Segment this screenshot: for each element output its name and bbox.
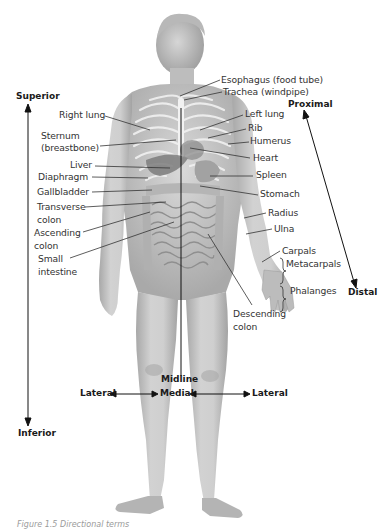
label-radius: Radius bbox=[268, 207, 298, 218]
label-left-lung: Left lung bbox=[245, 108, 284, 119]
label-descending-colon: Descending bbox=[233, 308, 286, 319]
lateral-left-label: Lateral bbox=[80, 388, 116, 398]
label-diaphragm: Diaphragm bbox=[38, 171, 88, 182]
lateral-right-label: Lateral bbox=[252, 388, 288, 398]
superior-label: Superior bbox=[16, 91, 60, 101]
label-small-intestine-sub: intestine bbox=[38, 266, 77, 277]
label-humerus: Humerus bbox=[250, 135, 291, 146]
label-esophagus: Esophagus (food tube) bbox=[221, 74, 323, 85]
label-phalanges: Phalanges bbox=[290, 285, 336, 296]
label-gallbladder: Gallbladder bbox=[37, 186, 89, 197]
label-small-intestine: Small bbox=[38, 253, 63, 264]
figure-caption: Figure 1.5 Directional terms bbox=[17, 520, 129, 529]
left-foot bbox=[202, 498, 243, 518]
label-ascending-colon-sub: colon bbox=[34, 240, 58, 251]
medial-label: Medial bbox=[160, 388, 194, 398]
anatomy-diagram: Superior Inferior Proximal Distal Midlin… bbox=[0, 0, 386, 532]
label-stomach: Stomach bbox=[260, 188, 300, 199]
midline-label: Midline bbox=[161, 374, 198, 384]
label-sternum: Sternum bbox=[41, 130, 80, 141]
label-metacarpals: Metacarpals bbox=[286, 258, 341, 269]
label-descending-colon-sub: colon bbox=[233, 321, 257, 332]
label-spleen: Spleen bbox=[256, 169, 287, 180]
label-ascending-colon: Ascending bbox=[34, 227, 81, 238]
distal-label: Distal bbox=[348, 287, 377, 297]
label-rib: Rib bbox=[248, 122, 262, 133]
right-foot bbox=[115, 496, 164, 514]
label-heart: Heart bbox=[253, 152, 278, 163]
superior-inferior-arrow bbox=[25, 104, 31, 426]
label-ulna: Ulna bbox=[274, 223, 294, 234]
proximal-label: Proximal bbox=[288, 99, 333, 109]
label-sternum-sub: (breastbone) bbox=[41, 142, 99, 153]
label-liver: Liver bbox=[70, 159, 92, 170]
label-transverse-colon: Transverse bbox=[37, 201, 86, 212]
label-trachea: Trachea (windpipe) bbox=[223, 86, 309, 97]
inferior-label: Inferior bbox=[18, 428, 56, 438]
label-right-lung: Right lung bbox=[59, 109, 105, 120]
head bbox=[156, 14, 205, 86]
label-transverse-colon-sub: colon bbox=[37, 214, 61, 225]
label-carpals: Carpals bbox=[282, 245, 316, 256]
